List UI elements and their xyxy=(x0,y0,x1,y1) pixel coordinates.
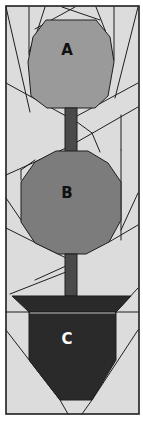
piece-a-octagon xyxy=(28,20,114,108)
stem-upper xyxy=(65,108,77,152)
pot-rim xyxy=(12,296,131,312)
stem-lower xyxy=(65,254,77,296)
label-a: A xyxy=(61,41,73,59)
label-b: B xyxy=(61,184,72,202)
piece-b-octagon xyxy=(21,151,121,254)
quilt-block-diagram: A B C xyxy=(0,0,143,422)
label-c: C xyxy=(61,330,72,348)
